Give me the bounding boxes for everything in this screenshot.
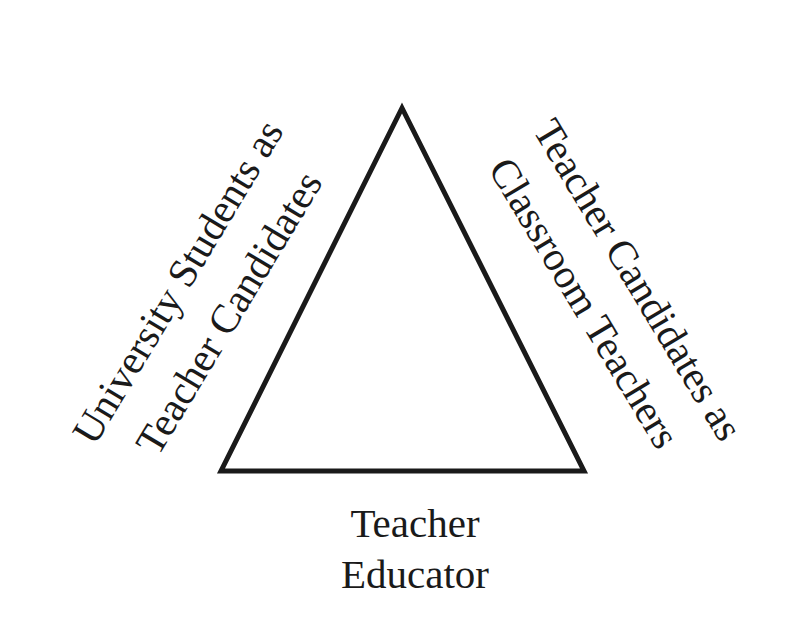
bottom-label-line2: Educator	[305, 549, 525, 600]
bottom-label: Teacher Educator	[305, 498, 525, 600]
bottom-label-line1: Teacher	[305, 498, 525, 549]
diagram-canvas: University Students as Teacher Candidate…	[0, 0, 810, 643]
